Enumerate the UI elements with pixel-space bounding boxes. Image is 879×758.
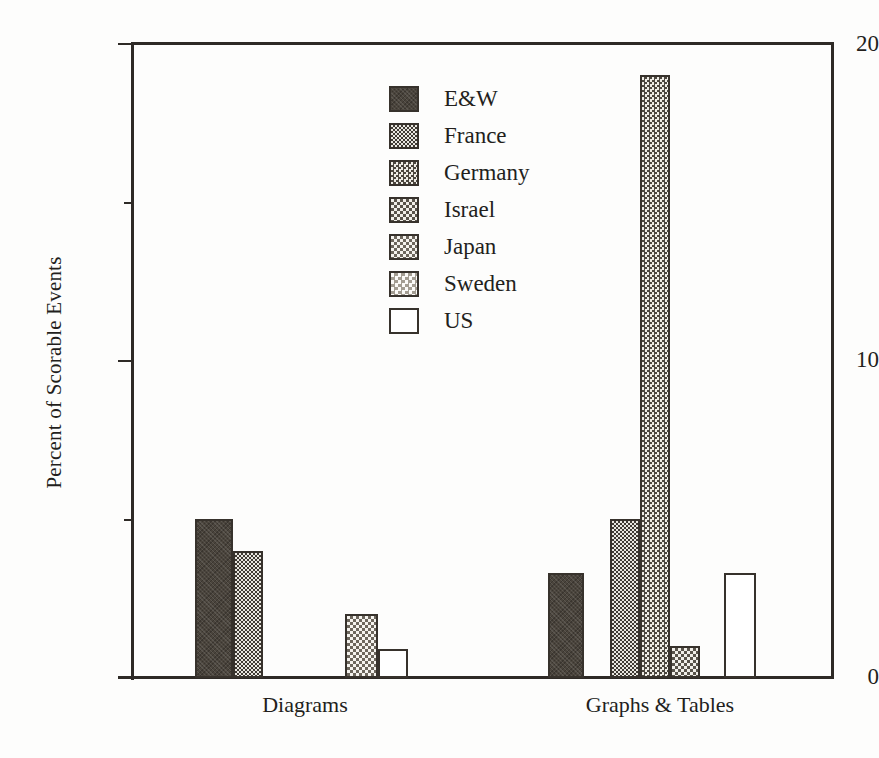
legend-item-japan: Japan — [389, 228, 530, 265]
legend-item-germany: Germany — [389, 154, 530, 191]
legend-swatch-germany — [389, 160, 419, 186]
legend-swatch-us — [389, 308, 419, 334]
legend-item-us: US — [389, 302, 530, 339]
bar-graphs-tables-france — [610, 519, 640, 678]
x-category-label-diagrams: Diagrams — [180, 692, 430, 718]
bar-graphs-tables-us — [724, 573, 756, 678]
bar-chart-figure: Percent of Scorable Events 20 10 0 Diagr… — [0, 0, 879, 758]
legend: E&W France Germany Israel Japan Sweden U… — [389, 80, 530, 339]
legend-swatch-ew — [389, 86, 419, 112]
bar-diagrams-ew — [195, 519, 233, 678]
legend-swatch-japan — [389, 234, 419, 260]
bar-diagrams-japan — [345, 614, 378, 678]
legend-item-israel: Israel — [389, 191, 530, 228]
legend-label-ew: E&W — [444, 87, 498, 110]
legend-label-france: France — [444, 124, 507, 147]
y-axis-title: Percent of Scorable Events — [42, 223, 67, 523]
bar-graphs-tables-ew — [548, 573, 584, 678]
bar-graphs-tables-germany — [640, 75, 670, 678]
x-category-label-graphs-tables: Graphs & Tables — [535, 692, 785, 718]
legend-label-japan: Japan — [444, 235, 496, 258]
legend-item-ew: E&W — [389, 80, 530, 117]
bar-diagrams-france — [233, 551, 263, 678]
legend-label-us: US — [444, 309, 473, 332]
legend-label-israel: Israel — [444, 198, 495, 221]
legend-swatch-france — [389, 123, 419, 149]
legend-item-france: France — [389, 117, 530, 154]
legend-swatch-sweden — [389, 271, 419, 297]
bar-diagrams-us — [378, 649, 408, 678]
legend-label-germany: Germany — [444, 161, 530, 184]
legend-swatch-israel — [389, 197, 419, 223]
legend-item-sweden: Sweden — [389, 265, 530, 302]
legend-label-sweden: Sweden — [444, 272, 517, 295]
bar-graphs-tables-israel — [670, 646, 700, 678]
